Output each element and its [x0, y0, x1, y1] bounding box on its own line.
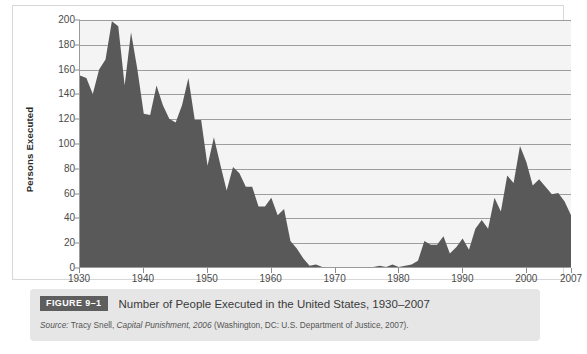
x-axis-tick-label: 1960	[249, 274, 293, 284]
source-lead: Source:	[40, 320, 69, 330]
y-axis-tick-label: 160	[45, 65, 75, 75]
y-axis-tick-label: 200	[45, 15, 75, 25]
y-axis-ticks: 020406080100120140160180200	[39, 20, 75, 268]
x-axis-tick-label: 1980	[376, 274, 420, 284]
caption-title-row: FIGURE 9–1 Number of People Executed in …	[40, 296, 430, 311]
figure-source: Source: Tracy Snell, Capital Punishment,…	[40, 320, 409, 330]
y-axis-tick-label: 40	[45, 213, 75, 223]
y-axis-tick-label: 100	[45, 139, 75, 149]
source-author: Tracy Snell,	[69, 320, 117, 330]
executions-area-series	[80, 20, 571, 267]
y-axis-tick-label: 180	[45, 40, 75, 50]
x-axis-tick-label: 1940	[121, 274, 165, 284]
y-axis-title: Persons Executed	[24, 90, 35, 210]
x-axis-tick-label: 1990	[440, 274, 484, 284]
y-axis-tick-label: 0	[45, 263, 75, 273]
figure-caption-panel: FIGURE 9–1 Number of People Executed in …	[30, 289, 540, 341]
x-axis-tick-label: 1950	[185, 274, 229, 284]
y-axis-tick-label: 120	[45, 114, 75, 124]
source-rest: (Washington, DC: U.S. Department of Just…	[212, 320, 409, 330]
figure-title: Number of People Executed in the United …	[119, 298, 430, 310]
figure-number-badge: FIGURE 9–1	[40, 296, 108, 311]
y-axis-tick-label: 60	[45, 189, 75, 199]
y-axis-tick-label: 140	[45, 89, 75, 99]
x-axis-tick-label: 2000	[504, 274, 548, 284]
source-work: Capital Punishment, 2006	[117, 320, 212, 330]
x-axis-tick-label: 1970	[313, 274, 357, 284]
y-axis-tick-label: 20	[45, 238, 75, 248]
chart-frame: Persons Executed 02040608010012014016018…	[12, 5, 564, 280]
x-axis-ticks: 193019401950196019701980199020002007	[79, 268, 571, 288]
y-axis-tick-label: 80	[45, 164, 75, 174]
plot-area	[79, 20, 571, 268]
x-axis-tick-label: 2007	[549, 274, 587, 284]
x-axis-tick-label: 1930	[57, 274, 101, 284]
